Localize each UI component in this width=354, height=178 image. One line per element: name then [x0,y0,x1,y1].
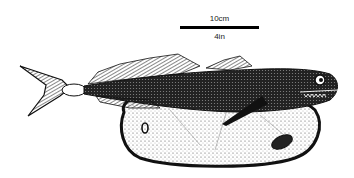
dorsal-fin-2 [206,56,252,70]
fish-illustration [0,0,354,178]
